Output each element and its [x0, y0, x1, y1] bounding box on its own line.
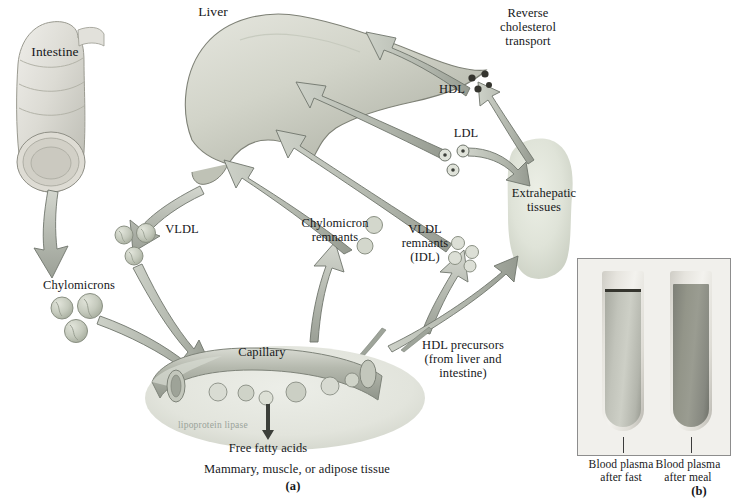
figure-canvas: Intestine Liver Chylomicrons VLDL Chylom… [0, 0, 738, 504]
pointer-line-meal [691, 437, 692, 453]
label-vldl: VLDL [158, 222, 206, 236]
label-chylomicrons: Chylomicrons [26, 278, 132, 292]
panel-b-label: (b) [684, 484, 714, 498]
label-tissues: Mammary, muscle, or adipose tissue [174, 462, 420, 476]
label-liver: Liver [178, 4, 248, 19]
label-intestine: Intestine [12, 44, 98, 59]
label-hdl: HDL [432, 82, 472, 96]
caption-blood-plasma-after-meal: Blood plasma after meal [640, 458, 736, 484]
arrow-capillary-to-chylomicron-remnants [310, 242, 344, 342]
label-hdl-precursors: HDL precursors (from liver and intestine… [400, 338, 526, 380]
arrow-liver-to-vldl [130, 186, 204, 252]
pointer-line-fast [623, 437, 624, 453]
test-tube-meal [670, 271, 712, 431]
label-vldl-remnants: VLDL remnants (IDL) [392, 222, 458, 264]
label-capillary: Capillary [222, 345, 302, 359]
arrow-vldl-to-capillary [133, 264, 211, 366]
plasma-meal [673, 284, 709, 427]
label-extrahepatic-tissues: Extrahepatic tissues [500, 186, 588, 214]
capillary-illustration [145, 346, 425, 450]
label-ldl: LDL [446, 126, 486, 140]
label-lipoprotein-lipase: lipoprotein lipase [178, 420, 290, 431]
label-chylomicron-remnants: Chylomicron remnants [294, 216, 376, 244]
panel-b-photo [577, 258, 731, 456]
arrow-intestine-to-chylomicrons [34, 190, 68, 278]
label-reverse-cholesterol-transport: Reverse cholesterol transport [476, 6, 580, 48]
panel-a-label: (a) [272, 479, 314, 493]
label-free-fatty-acids: Free fatty acids [209, 441, 327, 455]
test-tube-fast [602, 271, 644, 431]
ldl-particles [439, 145, 469, 176]
chylomicron-particles [51, 294, 103, 343]
plasma-fast [605, 292, 641, 427]
